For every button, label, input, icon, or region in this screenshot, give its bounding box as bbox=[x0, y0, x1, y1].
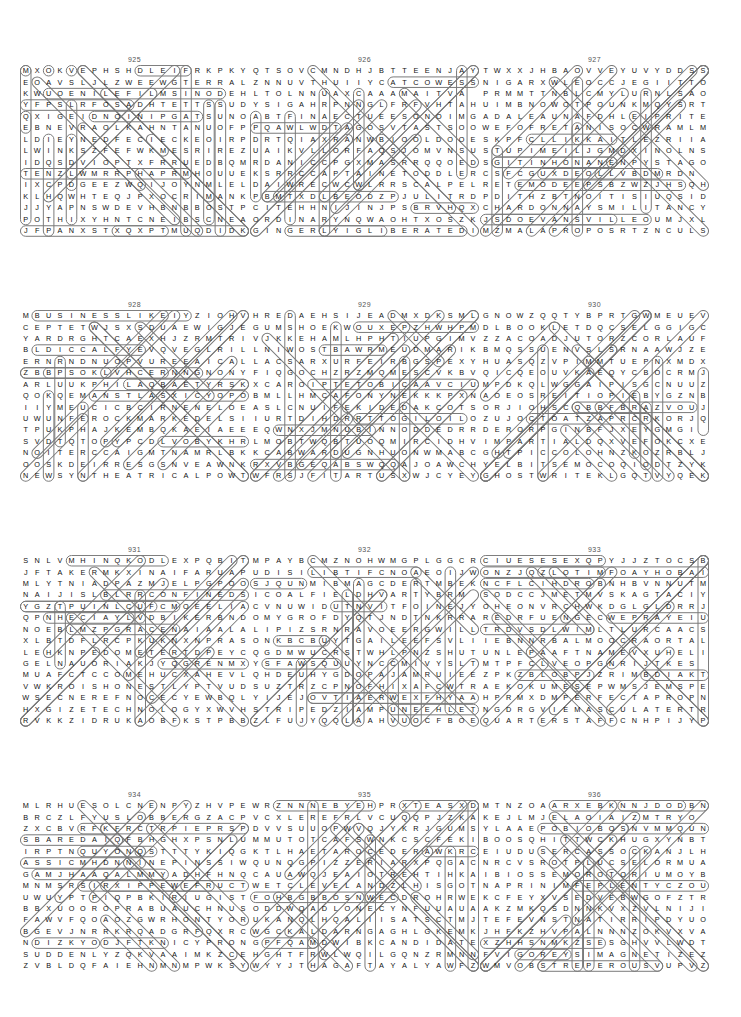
grid-cell: K bbox=[43, 715, 54, 726]
word-search-puzzle[interactable]: 936MTNZOAARXEBKNNJDODBNKEJLMJELAOIAIZMTR… bbox=[480, 790, 710, 972]
grid-cell: X bbox=[480, 937, 491, 948]
grid-cell: F bbox=[503, 892, 514, 903]
grid-cell: H bbox=[100, 379, 111, 390]
grid-cell: B bbox=[697, 555, 708, 566]
grid-cell: B bbox=[146, 903, 157, 914]
grid-cell: R bbox=[663, 134, 674, 145]
grid-cell: A bbox=[54, 225, 65, 236]
grid-cell: R bbox=[273, 704, 284, 715]
grid-cell: S bbox=[20, 834, 31, 845]
word-search-puzzle[interactable]: 932MPAYBCMZNOHWMGPLGGCRUDISILIBTIFCNOAEO… bbox=[250, 545, 480, 727]
word-search-puzzle[interactable]: 934MLRHUESOLCNENPYZHVPEBRCZLFYUSLOBBERGZ… bbox=[20, 790, 250, 972]
grid-cell: R bbox=[203, 566, 214, 577]
grid-cell: R bbox=[433, 949, 444, 960]
word-search-puzzle[interactable]: 935WRZNNNEBYEHPRXTEASXDVCXLEREFRLVCUQQPJ… bbox=[250, 790, 480, 972]
word-search-puzzle[interactable]: 927TWXXJHBAOVVEYUVYDDSSNIGARXWLEOCCJEGII… bbox=[480, 55, 710, 237]
grid-cell: A bbox=[134, 624, 145, 635]
grid-cell: N bbox=[364, 390, 375, 401]
grid-cell: I bbox=[387, 379, 398, 390]
grid-cell: J bbox=[399, 191, 410, 202]
grid-cell: L bbox=[43, 379, 54, 390]
grid-cell: P bbox=[66, 424, 77, 435]
grid-cell: W bbox=[537, 470, 548, 481]
grid-cell: L bbox=[422, 413, 433, 424]
grid-cell: V bbox=[134, 356, 145, 367]
grid-cell: A bbox=[134, 715, 145, 726]
grid-cell: N bbox=[652, 88, 663, 99]
grid-cell: N bbox=[480, 76, 491, 87]
grid-cell: U bbox=[467, 145, 478, 156]
word-search-puzzle[interactable]: 926QTSOVCMNDHJBTTEENJAYZNNUVTHUIIYCATCOW… bbox=[250, 55, 480, 237]
word-search-puzzle[interactable]: 933CIUESESEXQPYJJZTOCSBONZJQZLOTIMFOAYHO… bbox=[480, 545, 710, 727]
letter-grid: QTSOVCMNDHJBTTEENJAYZNNUVTHUIIYCATCOWESS… bbox=[250, 65, 479, 237]
grid-cell: L bbox=[606, 880, 617, 891]
grid-cell: Y bbox=[237, 65, 248, 76]
grid-cell: S bbox=[387, 145, 398, 156]
grid-cell: W bbox=[66, 191, 77, 202]
grid-cell: R bbox=[214, 937, 225, 948]
grid-cell: K bbox=[100, 823, 111, 834]
grid-cell: I bbox=[192, 191, 203, 202]
grid-cell: Q bbox=[583, 555, 594, 566]
grid-cell: T bbox=[410, 214, 421, 225]
grid-cell: A bbox=[157, 949, 168, 960]
grid-cell: G bbox=[594, 145, 605, 156]
word-search-puzzle[interactable]: 928MBUSINESSLIKEIYZIOHVCEPTETWJSXSDUAEWI… bbox=[20, 300, 250, 482]
grid-cell: Z bbox=[640, 555, 651, 566]
grid-cell: C bbox=[663, 880, 674, 891]
grid-cell: Q bbox=[526, 566, 537, 577]
word-search-puzzle[interactable]: 931SNLVMHINQKODLEXPQBITJFTAKERMKXINAIFAR… bbox=[20, 545, 250, 727]
grid-cell: Z bbox=[192, 800, 203, 811]
grid-cell: S bbox=[250, 578, 261, 589]
grid-cell: N bbox=[606, 658, 617, 669]
grid-cell: A bbox=[594, 134, 605, 145]
grid-cell: V bbox=[549, 658, 560, 669]
grid-cell: Z bbox=[54, 168, 65, 179]
grid-cell: O bbox=[480, 566, 491, 577]
grid-cell: A bbox=[296, 937, 307, 948]
grid-cell: B bbox=[192, 202, 203, 213]
grid-cell: D bbox=[583, 321, 594, 332]
grid-cell: W bbox=[89, 321, 100, 332]
grid-cell: L bbox=[594, 624, 605, 635]
word-search-puzzle[interactable]: 925MXOKVEPHSHDLEIFRKPKYEOAVSLJLZWEEWGTER… bbox=[20, 55, 250, 237]
grid-cell: B bbox=[330, 191, 341, 202]
grid-cell: F bbox=[273, 937, 284, 948]
grid-cell: B bbox=[20, 344, 31, 355]
grid-cell: C bbox=[674, 555, 685, 566]
grid-cell: O bbox=[467, 413, 478, 424]
grid-cell: Z bbox=[514, 800, 525, 811]
grid-cell: A bbox=[467, 869, 478, 880]
grid-cell: B bbox=[594, 823, 605, 834]
grid-cell: B bbox=[100, 589, 111, 600]
grid-cell: Z bbox=[134, 578, 145, 589]
grid-cell: P bbox=[237, 811, 248, 822]
grid-cell: F bbox=[697, 333, 708, 344]
grid-cell: L bbox=[307, 926, 318, 937]
grid-cell: Z bbox=[43, 601, 54, 612]
grid-cell: O bbox=[606, 459, 617, 470]
grid-cell: L bbox=[157, 704, 168, 715]
word-search-puzzle[interactable]: 930GNOWZQQTYBPRTGWMEUEVDLBOOKLETDQCSELGG… bbox=[480, 300, 710, 482]
grid-cell: C bbox=[123, 601, 134, 612]
grid-cell: K bbox=[353, 402, 364, 413]
grid-cell: T bbox=[376, 869, 387, 880]
grid-cell: E bbox=[89, 134, 100, 145]
grid-cell: N bbox=[273, 601, 284, 612]
grid-cell: I bbox=[123, 447, 134, 458]
grid-cell: A bbox=[353, 880, 364, 891]
word-search-puzzle[interactable]: 929HREDAEHSIJEADMXDKSMLGUMSHOEKWOUXEPZHW… bbox=[250, 300, 480, 482]
grid-cell: R bbox=[296, 681, 307, 692]
grid-cell: U bbox=[157, 669, 168, 680]
grid-cell: E bbox=[399, 578, 410, 589]
grid-cell: F bbox=[180, 589, 191, 600]
grid-cell: H bbox=[376, 681, 387, 692]
grid-cell: T bbox=[467, 880, 478, 891]
grid-cell: K bbox=[491, 903, 502, 914]
grid-cell: G bbox=[43, 704, 54, 715]
grid-cell: H bbox=[237, 88, 248, 99]
grid-cell: V bbox=[273, 823, 284, 834]
grid-cell: U bbox=[617, 356, 628, 367]
grid-cell: A bbox=[376, 669, 387, 680]
grid-cell: Q bbox=[480, 367, 491, 378]
